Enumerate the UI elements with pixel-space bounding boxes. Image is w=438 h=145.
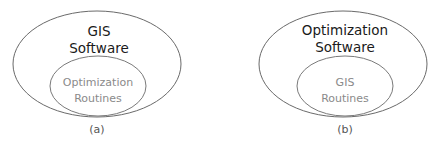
outer-label-b-line2: Software — [315, 39, 375, 55]
inner-label-b-line1: GIS — [336, 76, 355, 89]
caption-a: (a) — [89, 123, 104, 136]
outer-label-a-line2: Software — [69, 40, 129, 56]
inner-label-a-line2: Routines — [74, 92, 122, 105]
diagram-b: Optimization Software GIS Routines (b) — [259, 11, 427, 136]
inner-label-b-line2: Routines — [321, 92, 369, 105]
nested-ellipse-diagrams: GIS Software Optimization Routines (a) O… — [0, 0, 438, 145]
caption-b: (b) — [337, 123, 353, 136]
outer-label-b-line1: Optimization — [302, 22, 388, 38]
diagram-a: GIS Software Optimization Routines (a) — [13, 11, 181, 136]
outer-label-a-line1: GIS — [87, 23, 110, 39]
inner-label-a-line1: Optimization — [63, 76, 133, 89]
